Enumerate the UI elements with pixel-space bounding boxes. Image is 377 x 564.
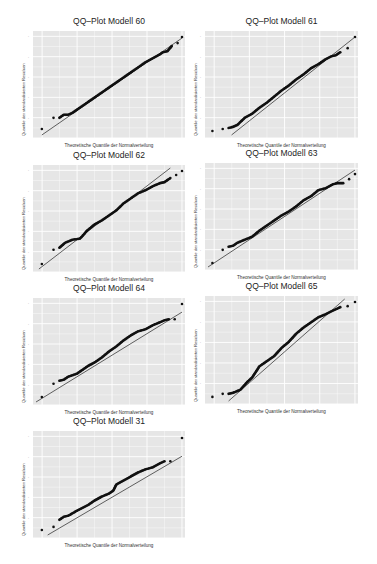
y-tick: -	[28, 434, 29, 438]
y-tick: -	[200, 340, 201, 344]
y-tick: -	[28, 75, 29, 79]
y-tick: -	[28, 250, 29, 254]
x-axis-label: Theoretische Quantile der Normalverteilu…	[33, 143, 185, 148]
y-axis-label: Quantile der standardisierten Residuen	[193, 329, 198, 402]
x-axis-label: Theoretische Quantile der Normalverteilu…	[33, 543, 185, 548]
y-tick: -	[200, 227, 201, 231]
y-tick: -	[28, 495, 29, 499]
x-axis-label: Theoretische Quantile der Normalverteilu…	[33, 410, 185, 415]
y-tick: -	[28, 229, 29, 233]
y-axis-label: Quantile der standardisierten Residuen	[193, 195, 198, 268]
y-tick: -	[200, 55, 201, 59]
qq-plot-area	[33, 31, 185, 138]
y-tick: -	[200, 166, 201, 170]
panel-title: QQ–Plot Modell 63	[205, 148, 358, 158]
y-tick: -	[200, 299, 201, 303]
y-tick: -	[200, 34, 201, 38]
y-tick: -	[28, 455, 29, 459]
panel-title: QQ–Plot Modell 61	[205, 16, 358, 26]
y-tick: -	[200, 95, 201, 99]
qq-plot-area	[205, 296, 358, 404]
y-tick: -	[28, 322, 29, 326]
panel-title: QQ–Plot Modell 64	[33, 283, 185, 293]
y-tick: -	[28, 362, 29, 366]
panel-title: QQ–Plot Modell 62	[33, 150, 185, 160]
y-tick: -	[200, 75, 201, 79]
y-tick: -	[28, 55, 29, 59]
y-axis-label: Quantile der standardisierten Residuen	[21, 63, 26, 136]
y-tick: -	[28, 34, 29, 38]
y-axis-label: Quantile der standardisierten Residuen	[21, 197, 26, 270]
y-tick: -	[28, 383, 29, 387]
qq-plot-area	[33, 165, 185, 272]
y-tick: -	[200, 361, 201, 365]
y-tick: -	[28, 189, 29, 193]
y-axis-label: Quantile der standardisierten Residuen	[21, 330, 26, 403]
y-tick: -	[28, 95, 29, 99]
y-tick: -	[200, 320, 201, 324]
panel-title: QQ–Plot Modell 65	[205, 281, 358, 291]
y-axis-label: Quantile der standardisierten Residuen	[21, 463, 26, 536]
y-tick: -	[28, 475, 29, 479]
qq-plot-area	[33, 298, 185, 405]
x-axis-label: Theoretische Quantile der Normalverteilu…	[33, 277, 185, 282]
y-axis-label: Quantile der standardisierten Residuen	[193, 63, 198, 136]
panel-title: QQ–Plot Modell 31	[33, 416, 185, 426]
y-tick: -	[28, 301, 29, 305]
y-tick: -	[28, 209, 29, 213]
y-tick: -	[28, 516, 29, 520]
y-tick: -	[200, 381, 201, 385]
qq-plot-area	[205, 31, 358, 138]
y-tick: -	[200, 207, 201, 211]
qq-plot-area	[205, 163, 358, 270]
y-tick: -	[28, 116, 29, 120]
y-tick: -	[200, 248, 201, 252]
y-tick: -	[200, 187, 201, 191]
x-axis-label: Theoretische Quantile der Normalverteilu…	[205, 409, 358, 414]
y-tick: -	[28, 342, 29, 346]
y-tick: -	[28, 168, 29, 172]
panel-title: QQ–Plot Modell 60	[33, 16, 185, 26]
x-axis-label: Theoretische Quantile der Normalverteilu…	[205, 275, 358, 280]
y-tick: -	[200, 116, 201, 120]
qq-plot-area	[33, 431, 185, 538]
